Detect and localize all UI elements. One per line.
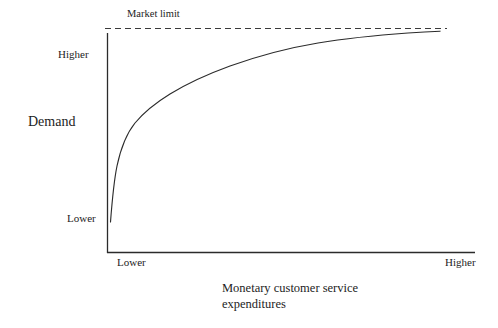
y-axis-tick-label-higher: Higher [58, 48, 89, 61]
x-axis-tick-label-higher: Higher [445, 256, 476, 269]
y-axis-title: Demand [28, 114, 75, 130]
x-axis-tick-label-lower: Lower [117, 256, 146, 269]
x-axis-title: Monetary customer serviceexpenditures [222, 281, 358, 312]
chart-figure: Market limit Higher Lower Lower Higher D… [0, 0, 498, 328]
x-axis-title-line1: Monetary customer service [222, 281, 358, 295]
demand-curve [111, 31, 441, 222]
x-axis-title-line2: expenditures [222, 297, 286, 311]
annotation-market-limit-label: Market limit [127, 8, 180, 20]
y-axis-tick-label-lower: Lower [67, 212, 96, 225]
